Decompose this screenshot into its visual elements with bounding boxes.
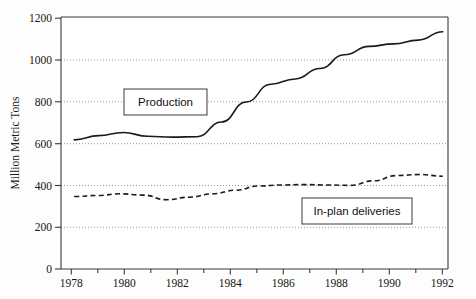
- production-label-annotation: Production: [124, 89, 207, 115]
- y-axis-ticks: [55, 18, 61, 269]
- y-tick-label-1000: 1000: [29, 54, 52, 66]
- y-axis-title: Million Metric Tons: [9, 96, 21, 189]
- y-tick-label-1200: 1200: [29, 12, 52, 24]
- x-tick-label-1980: 1980: [113, 277, 136, 289]
- plot-area-background: [61, 17, 448, 269]
- x-tick-label-1982: 1982: [166, 277, 189, 289]
- line-chart: 0 200 400 600 800 1000 1200: [0, 0, 476, 299]
- y-axis-tick-labels: 0 200 400 600 800 1000 1200: [29, 12, 52, 275]
- x-tick-label-1978: 1978: [60, 277, 83, 289]
- deliveries-label-text: In-plan deliveries: [314, 205, 401, 217]
- x-tick-label-1992: 1992: [431, 277, 454, 289]
- x-tick-label-1986: 1986: [272, 277, 295, 289]
- x-axis-ticks: [71, 269, 442, 275]
- y-tick-label-0: 0: [46, 263, 52, 275]
- y-tick-label-600: 600: [35, 138, 53, 150]
- x-tick-label-1988: 1988: [325, 277, 348, 289]
- x-tick-label-1990: 1990: [378, 277, 401, 289]
- chart-container: 0 200 400 600 800 1000 1200: [0, 0, 476, 299]
- deliveries-label-annotation: In-plan deliveries: [302, 198, 412, 224]
- y-tick-label-400: 400: [35, 180, 53, 192]
- x-tick-label-1984: 1984: [219, 277, 242, 289]
- production-label-text: Production: [138, 96, 193, 108]
- y-tick-label-800: 800: [35, 96, 53, 108]
- x-axis-tick-labels: 1978 1980 1982 1984 1986 1988 1990 1992: [60, 277, 454, 289]
- y-tick-label-200: 200: [35, 221, 53, 233]
